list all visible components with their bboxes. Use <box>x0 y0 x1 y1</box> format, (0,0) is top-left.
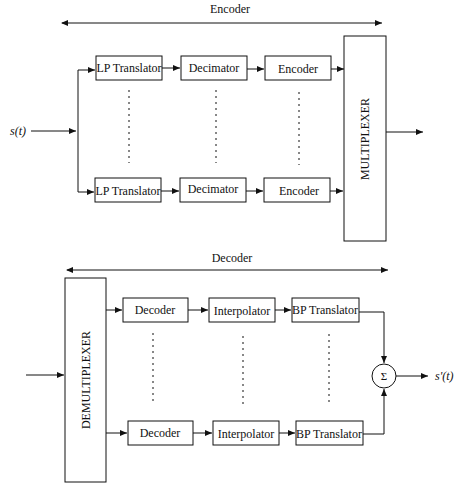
multiplexer-label: MULTIPLEXER <box>358 98 372 180</box>
decimator-label-1: Decimator <box>189 61 240 75</box>
interpolator-label-1: Interpolator <box>214 304 271 318</box>
demultiplexer-label: DEMULTIPLEXER <box>79 331 93 429</box>
sum-symbol: Σ <box>381 370 387 382</box>
diagram-canvas: Encoder s(t) LP Translator Decimator Enc… <box>0 0 459 487</box>
encoder-section-label: Encoder <box>210 2 250 16</box>
decoder-label-1: Decoder <box>135 303 176 317</box>
bp-translator-label-1: BP Translator <box>292 303 358 317</box>
interpolator-label-2: Interpolator <box>218 427 275 441</box>
encoder-label-1: Encoder <box>278 62 318 76</box>
output-signal-label: s'(t) <box>435 369 454 383</box>
lp-translator-label-1: LP Translator <box>96 61 161 75</box>
encoder-label-2: Encoder <box>279 184 319 198</box>
decimator-label-2: Decimator <box>188 182 239 196</box>
decoder-section-label: Decoder <box>212 251 253 265</box>
decoder-label-2: Decoder <box>140 426 181 440</box>
lp-translator-label-2: LP Translator <box>95 184 160 198</box>
bp-translator-label-2: BP Translator <box>296 427 362 441</box>
input-signal-label: s(t) <box>10 124 26 138</box>
